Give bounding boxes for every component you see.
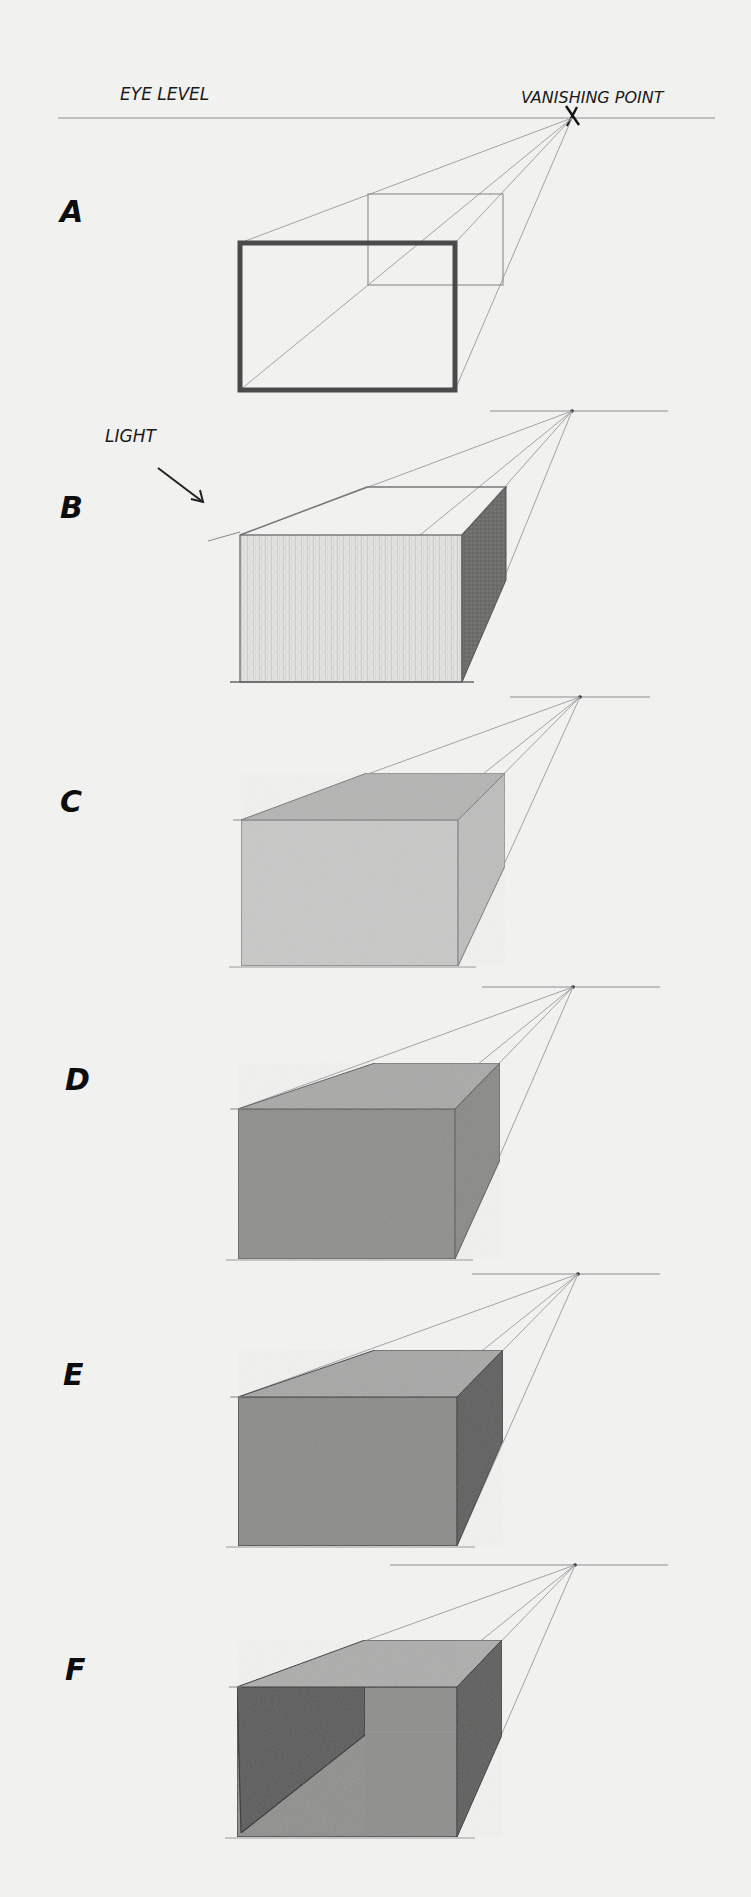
panel-label-d: D <box>65 1062 90 1097</box>
light-label: LIGHT <box>105 426 157 446</box>
panel-label-f: F <box>65 1652 86 1687</box>
perspective-shading-diagram: EYE LEVEL VANISHING POINT LIGHT ABCDEF <box>0 0 751 1897</box>
vanishing-point-label: VANISHING POINT <box>521 88 665 107</box>
front-face <box>238 1397 457 1546</box>
panel-label-c: C <box>60 784 82 819</box>
front-face <box>241 820 458 966</box>
panel-label-a: A <box>58 194 83 229</box>
eye-level-label: EYE LEVEL <box>120 84 209 104</box>
panel-label-e: E <box>63 1357 84 1392</box>
front-face <box>238 1109 455 1259</box>
front-face-hatched <box>240 535 462 682</box>
panel-label-b: B <box>60 490 83 525</box>
